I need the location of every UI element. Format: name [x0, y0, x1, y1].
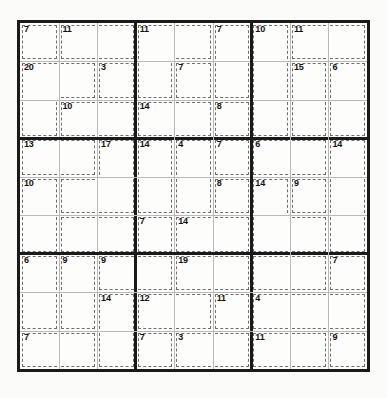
- cage-boundary-b: [253, 135, 288, 136]
- cage-sum-label: 20: [24, 62, 34, 73]
- sudoku-cell-r7c2[interactable]: 9: [59, 254, 98, 292]
- sudoku-cell-r8c7[interactable]: 4: [251, 292, 290, 330]
- sudoku-cell-r7c9[interactable]: 7: [328, 254, 367, 292]
- sudoku-cell-r4c5[interactable]: 4: [174, 138, 213, 176]
- sudoku-cell-r6c2[interactable]: [59, 215, 98, 253]
- sudoku-cell-r8c8[interactable]: [290, 292, 329, 330]
- sudoku-cell-r4c9[interactable]: 14: [328, 138, 367, 176]
- sudoku-cell-r6c4[interactable]: 7: [136, 215, 175, 253]
- sudoku-cell-r6c3[interactable]: [97, 215, 136, 253]
- sudoku-cell-r7c6[interactable]: [213, 254, 252, 292]
- sudoku-cell-r2c5[interactable]: 7: [174, 61, 213, 99]
- cage-boundary-r: [133, 217, 134, 251]
- sudoku-cell-r2c6[interactable]: [213, 61, 252, 99]
- sudoku-cell-r7c4[interactable]: [136, 254, 175, 292]
- sudoku-cell-r6c8[interactable]: [290, 215, 329, 253]
- sudoku-cell-r6c6[interactable]: [213, 215, 252, 253]
- sudoku-grid[interactable]: 7111171011203715610148131714476141081497…: [17, 20, 370, 372]
- sudoku-cell-r2c7[interactable]: [251, 61, 290, 99]
- sudoku-cell-r8c2[interactable]: [59, 292, 98, 330]
- sudoku-cell-r4c6[interactable]: 7: [213, 138, 252, 176]
- cage-boundary-t: [292, 333, 327, 334]
- sudoku-cell-r2c4[interactable]: [136, 61, 175, 99]
- sudoku-cell-r4c2[interactable]: [59, 138, 98, 176]
- sudoku-cell-r3c1[interactable]: [20, 100, 59, 138]
- sudoku-cell-r9c4[interactable]: 7: [136, 331, 175, 369]
- sudoku-cell-r1c4[interactable]: 11: [136, 23, 175, 61]
- sudoku-cell-r4c4[interactable]: 14: [136, 138, 175, 176]
- sudoku-cell-r3c3[interactable]: [97, 100, 136, 138]
- sudoku-cell-r1c2[interactable]: 11: [59, 23, 98, 61]
- grid-cells[interactable]: 7111171011203715610148131714476141081497…: [20, 23, 367, 369]
- sudoku-cell-r1c3[interactable]: [97, 23, 136, 61]
- sudoku-cell-r2c9[interactable]: 6: [328, 61, 367, 99]
- sudoku-cell-r6c1[interactable]: [20, 215, 59, 253]
- sudoku-cell-r3c8[interactable]: [290, 100, 329, 138]
- sudoku-cell-r9c8[interactable]: [290, 331, 329, 369]
- sudoku-cell-r1c8[interactable]: 11: [290, 23, 329, 61]
- sudoku-cell-r3c2[interactable]: 10: [59, 100, 98, 138]
- sudoku-cell-r9c6[interactable]: [213, 331, 252, 369]
- killer-sudoku-puzzle[interactable]: 7111171011203715610148131714476141081497…: [17, 20, 370, 372]
- sudoku-cell-r7c5[interactable]: 19: [174, 254, 213, 292]
- sudoku-cell-r2c8[interactable]: 15: [290, 61, 329, 99]
- cage-sum-label: 4: [178, 139, 183, 150]
- cage-boundary-r: [248, 256, 249, 290]
- sudoku-cell-r5c3[interactable]: [97, 177, 136, 215]
- sudoku-cell-r1c1[interactable]: 7: [20, 23, 59, 61]
- cage-boundary-b: [330, 58, 365, 59]
- sudoku-cell-r9c5[interactable]: 3: [174, 331, 213, 369]
- sudoku-cell-r5c7[interactable]: 14: [251, 177, 290, 215]
- sudoku-cell-r7c1[interactable]: 6: [20, 254, 59, 292]
- sudoku-cell-r6c5[interactable]: 14: [174, 215, 213, 253]
- sudoku-cell-r3c6[interactable]: 8: [213, 100, 252, 138]
- sudoku-cell-r4c3[interactable]: 17: [97, 138, 136, 176]
- sudoku-cell-r2c3[interactable]: 3: [97, 61, 136, 99]
- cage-boundary-r: [248, 63, 249, 97]
- sudoku-cell-r4c1[interactable]: 13: [20, 138, 59, 176]
- sudoku-cell-r8c4[interactable]: 12: [136, 292, 175, 330]
- sudoku-cell-r8c5[interactable]: [174, 292, 213, 330]
- sudoku-cell-r4c7[interactable]: 6: [251, 138, 290, 176]
- sudoku-cell-r8c9[interactable]: [328, 292, 367, 330]
- sudoku-cell-r9c1[interactable]: 7: [20, 331, 59, 369]
- sudoku-cell-r3c5[interactable]: [174, 100, 213, 138]
- sudoku-cell-r3c9[interactable]: [328, 100, 367, 138]
- sudoku-cell-r3c4[interactable]: 14: [136, 100, 175, 138]
- sudoku-cell-r9c2[interactable]: [59, 331, 98, 369]
- sudoku-cell-r5c6[interactable]: 8: [213, 177, 252, 215]
- cage-boundary-b: [215, 135, 250, 136]
- sudoku-cell-r1c5[interactable]: [174, 23, 213, 61]
- sudoku-cell-r8c3[interactable]: 14: [97, 292, 136, 330]
- sudoku-cell-r5c8[interactable]: 9: [290, 177, 329, 215]
- sudoku-cell-r8c6[interactable]: 11: [213, 292, 252, 330]
- sudoku-cell-r6c7[interactable]: [251, 215, 290, 253]
- sudoku-cell-r2c1[interactable]: 20: [20, 61, 59, 99]
- sudoku-cell-r9c9[interactable]: 9: [328, 331, 367, 369]
- cage-sum-label: 12: [140, 293, 150, 304]
- sudoku-cell-r9c7[interactable]: 11: [251, 331, 290, 369]
- cage-boundary-l: [22, 294, 23, 328]
- sudoku-cell-r7c7[interactable]: [251, 254, 290, 292]
- sudoku-cell-r1c9[interactable]: [328, 23, 367, 61]
- sudoku-cell-r4c8[interactable]: [290, 138, 329, 176]
- sudoku-cell-r5c4[interactable]: [136, 177, 175, 215]
- cage-boundary-l: [138, 102, 139, 136]
- cage-boundary-b: [99, 135, 134, 136]
- sudoku-cell-r1c6[interactable]: 7: [213, 23, 252, 61]
- sudoku-cell-r8c1[interactable]: [20, 292, 59, 330]
- sudoku-cell-r7c8[interactable]: [290, 254, 329, 292]
- sudoku-cell-r2c2[interactable]: [59, 61, 98, 99]
- sudoku-cell-r3c7[interactable]: [251, 100, 290, 138]
- sudoku-cell-r5c2[interactable]: [59, 177, 98, 215]
- cage-boundary-r: [171, 333, 172, 367]
- sudoku-cell-r9c3[interactable]: [97, 331, 136, 369]
- sudoku-cell-r1c7[interactable]: 10: [251, 23, 290, 61]
- sudoku-cell-r5c1[interactable]: 10: [20, 177, 59, 215]
- cage-boundary-l: [61, 25, 62, 59]
- sudoku-cell-r7c3[interactable]: 9: [97, 254, 136, 292]
- cage-boundary-t: [176, 294, 211, 295]
- sudoku-cell-r5c5[interactable]: [174, 177, 213, 215]
- sudoku-cell-r6c9[interactable]: [328, 215, 367, 253]
- sudoku-cell-r5c9[interactable]: [328, 177, 367, 215]
